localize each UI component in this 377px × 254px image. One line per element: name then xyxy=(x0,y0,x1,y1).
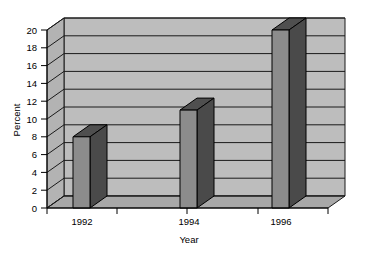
bar-1996 xyxy=(272,18,306,208)
bar-chart-figure: 20 18 16 14 12 10 8 6 4 2 0 1992 1994 19… xyxy=(0,0,377,254)
y-tick-label: 4 xyxy=(32,167,37,178)
chart-canvas: 20 18 16 14 12 10 8 6 4 2 0 1992 1994 19… xyxy=(0,0,377,254)
x-tick-label: 1996 xyxy=(270,216,291,227)
x-axis-title: Year xyxy=(179,234,198,245)
bar-1994 xyxy=(180,98,214,208)
bar-side-face xyxy=(289,18,306,208)
bar-front-face xyxy=(73,137,90,208)
y-tick-label: 12 xyxy=(26,96,37,107)
bar-1992 xyxy=(73,125,107,208)
y-axis-title: Percent xyxy=(11,103,22,136)
y-tick-label: 10 xyxy=(26,114,37,125)
x-tick-label: 1992 xyxy=(71,216,92,227)
bar-side-face xyxy=(197,98,214,208)
y-tick-label: 14 xyxy=(26,78,37,89)
y-tick-label: 20 xyxy=(26,25,37,36)
bar-front-face xyxy=(180,110,197,208)
y-tick-label: 16 xyxy=(26,60,37,71)
y-tick-label: 0 xyxy=(32,203,37,214)
bar-front-face xyxy=(272,30,289,208)
bar-side-face xyxy=(90,125,107,208)
y-tick-label: 6 xyxy=(32,149,37,160)
y-tick-label: 18 xyxy=(26,42,37,53)
x-tick-label: 1994 xyxy=(178,216,199,227)
y-tick-label: 2 xyxy=(32,185,37,196)
y-tick-label: 8 xyxy=(32,131,37,142)
